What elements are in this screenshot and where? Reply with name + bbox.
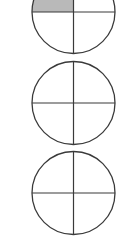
fraction-circle-1	[32, 0, 115, 54]
fraction-circles-diagram	[0, 0, 130, 238]
fraction-circle-3	[32, 152, 115, 235]
shaded-quarter-top-left	[32, 0, 74, 12]
diagram-svg	[0, 0, 130, 238]
fraction-circle-2	[32, 62, 115, 145]
